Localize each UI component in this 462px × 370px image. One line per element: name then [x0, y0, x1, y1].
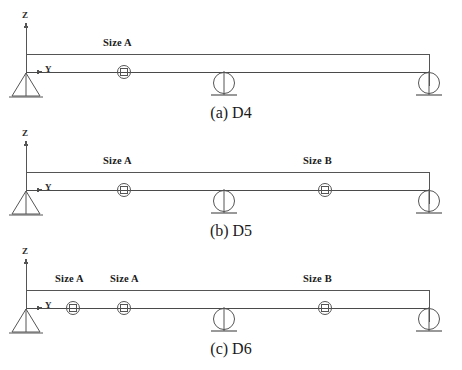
- segment-label-size-a-1: Size A: [55, 273, 84, 284]
- z-axis-arrowhead: [24, 140, 29, 146]
- roller-support-mid: [211, 71, 237, 95]
- roller-support-right: [416, 307, 442, 331]
- beam-diagram-d5: Z Y Size A Size B: [0, 118, 462, 236]
- roller-support-right: [416, 71, 442, 95]
- z-axis-label: Z: [22, 246, 28, 256]
- z-axis-arrowhead: [24, 22, 29, 28]
- roller-support-mid: [211, 189, 237, 213]
- beam-diagram-d6: Z Y Size A Size A Size B: [0, 236, 462, 354]
- y-axis-label: Y: [45, 300, 52, 310]
- y-axis-label: Y: [45, 64, 52, 74]
- z-axis-label: Z: [22, 10, 28, 20]
- segment-label-size-a: Size A: [103, 37, 132, 48]
- z-axis-arrowhead: [24, 258, 29, 264]
- d4-drawing: [0, 0, 462, 118]
- caption-d6: (c) D6: [0, 340, 462, 358]
- segment-label-size-a: Size A: [103, 155, 132, 166]
- segment-label-size-b: Size B: [303, 273, 332, 284]
- beam-diagram-d4: Z Y Size A: [0, 0, 462, 118]
- z-axis-label: Z: [22, 128, 28, 138]
- pin-support-left: [9, 73, 43, 97]
- roller-support-right: [416, 189, 442, 213]
- d6-drawing: [0, 236, 462, 354]
- d5-drawing: [0, 118, 462, 236]
- segment-label-size-a-2: Size A: [110, 273, 139, 284]
- pin-support-left: [9, 191, 43, 215]
- y-axis-label: Y: [45, 182, 52, 192]
- figure-root: Z Y Size A (a) D4: [0, 0, 462, 370]
- roller-support-mid: [211, 307, 237, 331]
- segment-label-size-b: Size B: [303, 155, 332, 166]
- pin-support-left: [9, 309, 43, 333]
